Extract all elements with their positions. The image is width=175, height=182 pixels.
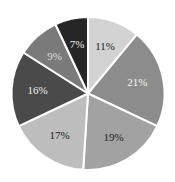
slice-label: 16%	[28, 84, 48, 96]
slice-label: 11%	[95, 40, 115, 52]
pie-chart: 11%21%19%17%16%9%7%	[0, 0, 175, 182]
slice-label: 9%	[47, 50, 62, 62]
slice-label: 21%	[127, 76, 147, 88]
slice-label: 17%	[50, 129, 70, 141]
slice-label: 19%	[104, 131, 124, 143]
slice-label: 7%	[70, 38, 85, 50]
